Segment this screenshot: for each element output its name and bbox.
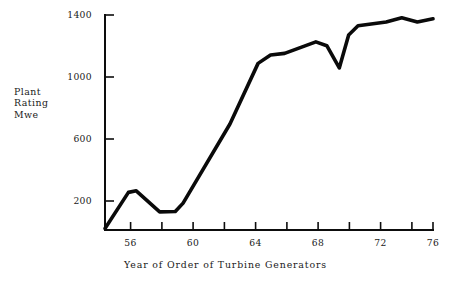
x-axis-ticks — [131, 222, 433, 230]
x-axis-title: Year of Order of Turbine Generators — [0, 259, 451, 270]
y-tick-label-200: 200 — [48, 195, 92, 206]
x-tick-label-60: 60 — [173, 237, 213, 248]
y-tick-label-600: 600 — [48, 133, 92, 144]
y-axis-title-line-3: Mwe — [14, 109, 48, 120]
y-tick-label-1400: 1400 — [48, 9, 92, 20]
x-tick-label-72: 72 — [361, 237, 401, 248]
y-axis-title-line-2: Rating — [14, 97, 48, 108]
y-axis-ticks — [105, 15, 114, 201]
y-axis-title: Plant Rating Mwe — [14, 86, 48, 120]
x-tick-label-56: 56 — [111, 237, 151, 248]
y-tick-label-1000: 1000 — [48, 71, 92, 82]
chart-figure: 1400 1000 600 200 56 60 64 68 72 76 Plan… — [0, 0, 451, 287]
data-series-plant-rating — [105, 18, 433, 229]
x-tick-label-76: 76 — [413, 237, 451, 248]
x-tick-label-64: 64 — [236, 237, 276, 248]
y-axis-title-line-1: Plant — [14, 86, 48, 97]
x-tick-label-68: 68 — [298, 237, 338, 248]
